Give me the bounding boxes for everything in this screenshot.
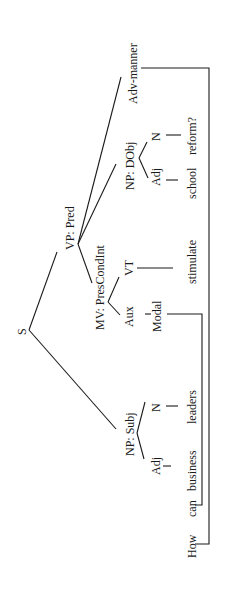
node-subj-adj: Adj <box>149 457 163 475</box>
tree-leaf-words: How can business leaders stimulate schoo… <box>185 117 199 558</box>
node-vp-pred: VP: Pred <box>63 206 77 250</box>
word-reform: reform? <box>185 117 199 155</box>
node-s: S <box>15 328 29 335</box>
word-stimulate: stimulate <box>185 240 199 284</box>
word-school: school <box>185 167 199 199</box>
edge-mv-aux <box>108 302 120 315</box>
tree-node-labels: S VP: Pred MV: PresCondInt Aux VT Modal … <box>15 43 164 475</box>
node-aux: Aux <box>122 306 136 327</box>
node-np-dobj: NP: DObj <box>123 142 137 190</box>
node-subj-n: N <box>149 403 163 412</box>
syntax-tree-diagram: S VP: Pred MV: PresCondInt Aux VT Modal … <box>0 0 225 594</box>
edge-s-vp <box>29 252 57 330</box>
edge-vp-adv <box>78 77 121 244</box>
edge-npdobj-adj <box>139 158 148 178</box>
node-dobj-adj: Adj <box>149 168 163 186</box>
word-leaders: leaders <box>185 390 199 424</box>
word-can: can <box>185 500 199 517</box>
node-adv-manner: Adv-manner <box>126 43 140 104</box>
edge-npsubj-adj <box>137 433 144 459</box>
edge-mv-vt <box>108 277 119 302</box>
node-mv-prescondint: MV: PresCondInt <box>93 245 107 330</box>
edge-vp-mv <box>78 244 92 283</box>
edge-vp-npdobj <box>78 164 116 244</box>
edge-npsubj-n <box>137 402 145 433</box>
edge-npdobj-n <box>139 142 147 158</box>
word-business: business <box>185 450 199 491</box>
tree-edges <box>29 68 209 544</box>
node-dobj-n: N <box>149 132 163 141</box>
node-modal: Modal <box>150 300 164 332</box>
node-vt: VT <box>122 259 136 276</box>
edge-s-npsubj <box>29 330 116 429</box>
word-how: How <box>185 534 199 558</box>
node-np-subj: NP: Subj <box>123 412 137 456</box>
